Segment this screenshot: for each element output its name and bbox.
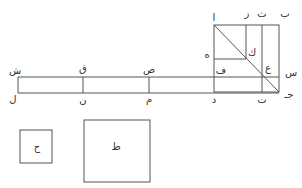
label-hha: ح [34, 142, 40, 152]
label-zay: ز [245, 9, 250, 19]
label-kaf: ك [248, 48, 256, 58]
label-ta: ت [257, 95, 266, 105]
label-mim: م [146, 95, 152, 105]
label-dal: د [212, 95, 216, 105]
label-tha: ث [257, 9, 266, 19]
label-jim: جـ [284, 90, 293, 100]
label-lam: ل [9, 95, 16, 105]
label-fa: ف [216, 65, 226, 75]
label-ain: ع [265, 63, 271, 73]
label-ba: ب [280, 9, 289, 19]
label-ha: ه [204, 50, 209, 60]
label-nun: ن [79, 95, 86, 105]
label-sin: س [285, 68, 297, 78]
label-alif: ا [213, 13, 216, 23]
label-qaf: ق [79, 64, 87, 74]
label-sad: ص [143, 65, 155, 75]
label-shin: ش [9, 66, 21, 76]
label-tta: ط [111, 142, 120, 152]
